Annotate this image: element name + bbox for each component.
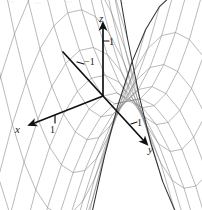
mesh-line-u — [43, 99, 202, 210]
mesh-line-v — [0, 4, 104, 210]
surface-mesh — [0, 0, 202, 210]
scan-artifacts — [6, 2, 126, 3]
z-axis-label: z — [99, 13, 103, 24]
mesh-line-u — [55, 87, 202, 210]
x-axis-label: x — [15, 124, 20, 135]
mesh-line-u — [0, 0, 139, 192]
z-axis-tick-label-1: 1 — [109, 37, 114, 47]
mesh-line-v — [0, 67, 90, 210]
mesh-line-v — [116, 0, 202, 210]
surface-plot-canvas — [0, 0, 202, 210]
mesh-line-v — [102, 0, 202, 188]
surface-plot-figure: z x y 1 −1 1 1 — [0, 0, 202, 210]
mesh-line-v — [0, 0, 132, 173]
y-axis-tick-label-1: 1 — [137, 118, 142, 128]
y-axis-tick-minus-1 — [77, 62, 84, 64]
mesh-line-v — [46, 0, 187, 101]
y-axis-label: y — [148, 144, 153, 155]
mesh-line-u — [20, 93, 186, 210]
mesh-line-u — [90, 0, 202, 210]
y-axis-tick-label-minus-1: −1 — [84, 57, 95, 67]
x-axis-tick-label-1: 1 — [50, 125, 55, 135]
mesh-line-u — [0, 10, 151, 210]
mesh-line-u — [0, 0, 116, 67]
